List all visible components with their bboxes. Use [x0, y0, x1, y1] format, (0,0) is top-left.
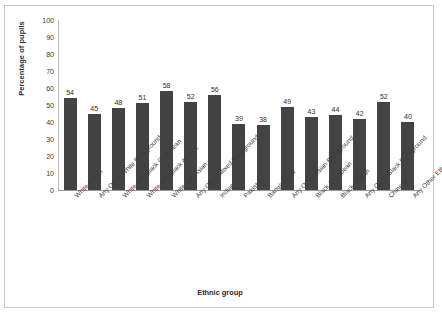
- bar-value-label: 43: [299, 108, 323, 115]
- bar-slot: 49: [275, 20, 299, 190]
- bar-value-label: 56: [203, 86, 227, 93]
- y-tick-label: 100: [32, 17, 54, 24]
- x-tick-label: Any Other Black Background: [363, 194, 368, 199]
- bar-value-label: 58: [155, 82, 179, 89]
- bar-value-label: 49: [275, 98, 299, 105]
- x-tick-label: Black Caribbean: [314, 194, 319, 199]
- y-tick-label: 60: [32, 85, 54, 92]
- y-tick-label: 50: [32, 102, 54, 109]
- bar-slot: 45: [82, 20, 106, 190]
- y-tick-label: 80: [32, 51, 54, 58]
- chart-frame: Percentage of pupils 1009080706050403020…: [4, 5, 434, 308]
- x-tick-label: Chinese: [387, 194, 392, 199]
- y-axis-title: Percentage of pupils: [17, 0, 26, 119]
- bar-slot: 38: [251, 20, 275, 190]
- x-tick-label: White British: [73, 194, 78, 199]
- bar-value-label: 38: [251, 116, 275, 123]
- x-tick-label: White and Black African: [145, 194, 150, 199]
- bar-value-label: 44: [323, 106, 347, 113]
- x-tick-label: White and Black Caribbean: [121, 194, 126, 199]
- x-tick-label: Pakistani: [242, 194, 247, 199]
- x-tick-label: Black African: [339, 194, 344, 199]
- x-tick-label: Any Other Ethnic Group: [411, 194, 416, 199]
- x-tick-label: White and Asian: [170, 194, 175, 199]
- x-tick-label: Any Other Asian Background: [290, 194, 295, 199]
- bar-value-label: 52: [179, 93, 203, 100]
- y-tick-label: 10: [32, 170, 54, 177]
- x-tick-label: Any Other White Background: [97, 194, 102, 199]
- x-axis-tick-labels: White BritishAny Other White BackgroundW…: [58, 194, 420, 280]
- y-tick-label: 30: [32, 136, 54, 143]
- y-tick-label: 40: [32, 119, 54, 126]
- bar-value-label: 45: [82, 105, 106, 112]
- y-tick-label: 70: [32, 68, 54, 75]
- x-axis-title: Ethnic group: [5, 288, 435, 297]
- y-tick-label: 20: [32, 153, 54, 160]
- bar-value-label: 51: [130, 94, 154, 101]
- bar[interactable]: [64, 98, 77, 190]
- bar-value-label: 40: [396, 113, 420, 120]
- y-tick-label: 90: [32, 34, 54, 41]
- plot-area: 544548515852563938494344425240: [58, 20, 420, 190]
- y-tick-label: 0: [32, 187, 54, 194]
- bar-slot: 54: [58, 20, 82, 190]
- bar-value-label: 48: [106, 99, 130, 106]
- bar-value-label: 39: [227, 115, 251, 122]
- bar-value-label: 42: [348, 110, 372, 117]
- x-tick-label: Bangladeshi: [266, 194, 271, 199]
- bar-value-label: 54: [58, 89, 82, 96]
- y-axis-tick-labels: 1009080706050403020100: [30, 20, 54, 190]
- x-tick-label: Indian: [218, 194, 223, 199]
- bar-value-label: 52: [372, 93, 396, 100]
- x-tick-label: Any Other Mixed Background: [194, 194, 199, 199]
